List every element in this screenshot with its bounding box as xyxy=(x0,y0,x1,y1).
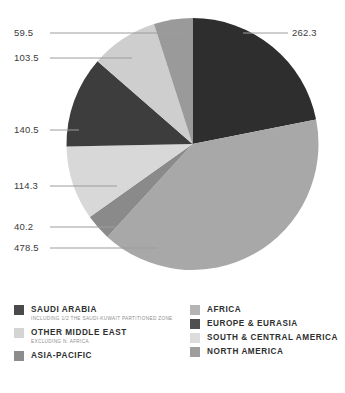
legend-swatch-icon xyxy=(190,347,200,357)
chart-area: 262.3 59.5 103.5 140.5 114.3 40.2 478.5 xyxy=(0,0,345,293)
legend-item-other-middle-east[interactable]: OTHER MIDDLE EASTEXCLUDING N. AFRICA xyxy=(14,327,194,346)
pie-chart-page: 262.3 59.5 103.5 140.5 114.3 40.2 478.5 … xyxy=(0,0,345,393)
legend-swatch-icon xyxy=(190,319,200,329)
legend-column-right: AFRICAEUROPE & EURASIASOUTH & CENTRAL AM… xyxy=(190,304,345,360)
legend-text-wrap: SAUDI ARABIAINCLUDING 1/2 THE SAUDI-KUWA… xyxy=(31,304,173,323)
legend-item-south-central-america[interactable]: SOUTH & CENTRAL AMERICA xyxy=(190,332,345,343)
legend-swatch-icon xyxy=(190,305,200,315)
legend-swatch-icon xyxy=(14,328,24,338)
legend-item-label: AFRICA xyxy=(207,304,241,315)
legend-item-sublabel: EXCLUDING N. AFRICA xyxy=(31,338,127,346)
legend-text-wrap: NORTH AMERICA xyxy=(207,346,283,357)
legend-text-wrap: ASIA-PACIFIC xyxy=(31,350,92,361)
pie-slices-group xyxy=(66,18,318,270)
legend-item-label: EUROPE & EURASIA xyxy=(207,318,298,329)
value-label-40-2: 40.2 xyxy=(14,221,33,232)
value-label-140-5: 140.5 xyxy=(14,124,39,135)
chart-legend: SAUDI ARABIAINCLUDING 1/2 THE SAUDI-KUWA… xyxy=(0,296,345,393)
legend-item-saudi-arabia[interactable]: SAUDI ARABIAINCLUDING 1/2 THE SAUDI-KUWA… xyxy=(14,304,194,323)
legend-item-europe-eurasia[interactable]: EUROPE & EURASIA xyxy=(190,318,345,329)
value-label-114-3: 114.3 xyxy=(14,180,38,191)
legend-item-label: ASIA-PACIFIC xyxy=(31,350,92,361)
legend-item-label: SOUTH & CENTRAL AMERICA xyxy=(207,332,338,343)
legend-swatch-icon xyxy=(14,351,24,361)
legend-text-wrap: AFRICA xyxy=(207,304,241,315)
legend-item-north-america[interactable]: NORTH AMERICA xyxy=(190,346,345,357)
legend-item-label: OTHER MIDDLE EAST xyxy=(31,327,127,338)
legend-item-africa[interactable]: AFRICA xyxy=(190,304,345,315)
pie-chart-svg xyxy=(0,0,345,293)
legend-item-asia-pacific[interactable]: ASIA-PACIFIC xyxy=(14,350,194,361)
legend-swatch-icon xyxy=(14,305,24,315)
legend-text-wrap: EUROPE & EURASIA xyxy=(207,318,298,329)
legend-column-left: SAUDI ARABIAINCLUDING 1/2 THE SAUDI-KUWA… xyxy=(14,304,194,364)
value-label-103-5: 103.5 xyxy=(14,52,39,63)
value-label-59-5: 59.5 xyxy=(14,27,33,38)
value-label-478-5: 478.5 xyxy=(14,242,39,253)
value-label-262-3: 262.3 xyxy=(292,27,317,38)
legend-item-label: SAUDI ARABIA xyxy=(31,304,173,315)
legend-swatch-icon xyxy=(190,333,200,343)
legend-item-label: NORTH AMERICA xyxy=(207,346,283,357)
legend-text-wrap: SOUTH & CENTRAL AMERICA xyxy=(207,332,338,343)
legend-item-sublabel: INCLUDING 1/2 THE SAUDI-KUWAIT PARTITION… xyxy=(31,315,173,323)
legend-text-wrap: OTHER MIDDLE EASTEXCLUDING N. AFRICA xyxy=(31,327,127,346)
